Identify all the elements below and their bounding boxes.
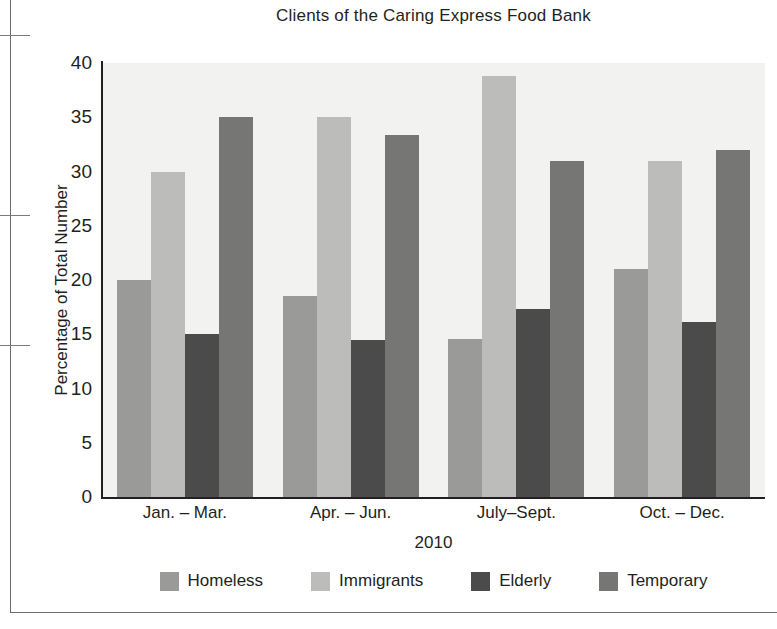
chart-legend: HomelessImmigrantsElderlyTemporary xyxy=(102,568,765,594)
y-tick-label: 20 xyxy=(46,270,92,289)
x-axis-title: 2010 xyxy=(102,533,765,553)
bar-temporary-3 xyxy=(550,161,584,497)
bar-immigrants-3 xyxy=(482,76,516,497)
x-axis-group-label: Apr. – Jun. xyxy=(268,503,434,523)
bar-homeless-3 xyxy=(448,339,482,497)
legend-label: Temporary xyxy=(627,571,707,591)
y-tick-label: 30 xyxy=(46,162,92,181)
bar-chart: Clients of the Caring Express Food Bank … xyxy=(0,0,777,629)
legend-swatch-icon xyxy=(160,572,179,591)
chart-title: Clients of the Caring Express Food Bank xyxy=(102,6,765,26)
legend-item-temporary[interactable]: Temporary xyxy=(599,571,707,591)
legend-item-immigrants[interactable]: Immigrants xyxy=(311,571,423,591)
y-tick-label: 15 xyxy=(46,324,92,343)
y-tick-label: 5 xyxy=(46,433,92,452)
legend-swatch-icon xyxy=(599,572,618,591)
bar-elderly-1 xyxy=(185,334,219,497)
bar-temporary-4 xyxy=(716,150,750,497)
legend-label: Homeless xyxy=(188,571,264,591)
x-axis-group-label: Oct. – Dec. xyxy=(599,503,765,523)
bar-elderly-4 xyxy=(682,322,716,497)
bar-homeless-1 xyxy=(117,280,151,497)
legend-item-homeless[interactable]: Homeless xyxy=(160,571,264,591)
page-margin-tick xyxy=(0,35,30,36)
legend-label: Immigrants xyxy=(339,571,423,591)
bar-elderly-2 xyxy=(351,340,385,497)
page-border-bottom xyxy=(10,612,777,613)
page-margin-tick xyxy=(0,215,30,216)
page-border-left xyxy=(10,0,11,613)
page-margin-tick xyxy=(0,345,30,346)
bar-temporary-2 xyxy=(385,135,419,497)
bar-immigrants-1 xyxy=(151,172,185,498)
legend-label: Elderly xyxy=(499,571,551,591)
bar-elderly-3 xyxy=(516,309,550,497)
legend-swatch-icon xyxy=(311,572,330,591)
legend-item-elderly[interactable]: Elderly xyxy=(471,571,551,591)
x-axis-group-label: Jan. – Mar. xyxy=(102,503,268,523)
y-axis-line xyxy=(101,61,103,499)
y-tick-label: 0 xyxy=(46,487,92,506)
bar-homeless-2 xyxy=(283,296,317,497)
bar-temporary-1 xyxy=(219,117,253,497)
x-axis-group-label: July–Sept. xyxy=(434,503,600,523)
bar-immigrants-2 xyxy=(317,117,351,497)
bar-immigrants-4 xyxy=(648,161,682,497)
y-tick-label: 40 xyxy=(46,53,92,72)
legend-swatch-icon xyxy=(471,572,490,591)
bar-homeless-4 xyxy=(614,269,648,497)
y-tick-label: 35 xyxy=(46,107,92,126)
y-tick-label: 25 xyxy=(46,216,92,235)
x-axis-line xyxy=(101,497,765,499)
y-tick-label: 10 xyxy=(46,379,92,398)
